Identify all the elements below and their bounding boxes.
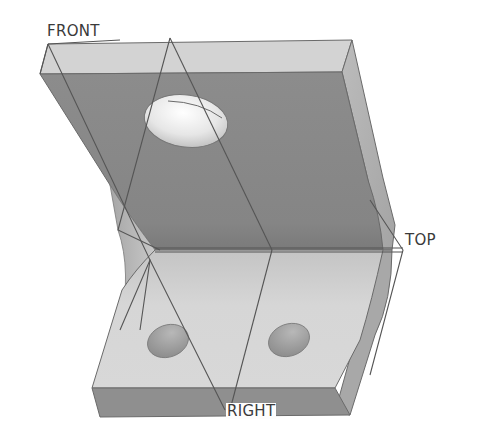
- datum-label-right: RIGHT: [226, 403, 276, 419]
- upper-flange-face: [40, 72, 383, 250]
- lower-flange-face: [92, 250, 383, 388]
- bracket-model: [0, 0, 481, 441]
- upper-flange-top-edge: [40, 40, 352, 74]
- datum-label-top: TOP: [404, 232, 437, 248]
- cad-viewport: FRONT TOP RIGHT: [0, 0, 481, 441]
- datum-label-front: FRONT: [46, 23, 101, 39]
